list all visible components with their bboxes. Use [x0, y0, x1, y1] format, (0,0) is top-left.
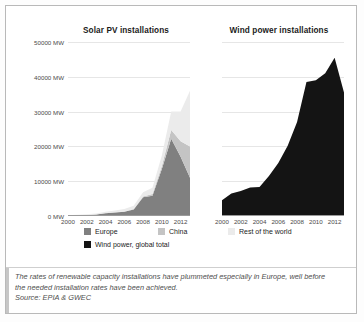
x-tick-label: 2008 [290, 218, 304, 225]
x-tick-label: 2002 [80, 218, 94, 225]
caption-line-1: The rates of renewable capacity installa… [15, 272, 347, 283]
legend-row-primary: Europe China Rest of the world [6, 228, 356, 241]
x-tick-label: 2000 [215, 218, 229, 225]
legend-label-rest-of-world: Rest of the world [239, 228, 292, 235]
x-tick-label: 2002 [234, 218, 248, 225]
chart-panel: Solar PV installations Wind power instal… [5, 5, 357, 314]
x-tick-label: 2004 [99, 218, 113, 225]
wind-chart-title: Wind power installations [204, 26, 354, 35]
solar-chart-title: Solar PV installations [51, 26, 201, 35]
solar-y-axis-labels: 0 MW10000 MW20000 MW30000 MW40000 MW5000… [14, 42, 64, 218]
caption-line-2: the needed installation rates have been … [15, 283, 347, 294]
legend-label-wind-global-total: Wind power, global total [95, 241, 169, 248]
legend-label-china: China [169, 228, 187, 235]
x-tick-label: 2006 [271, 218, 285, 225]
figure-caption: The rates of renewable capacity installa… [15, 272, 347, 304]
x-tick-label: 2010 [155, 218, 169, 225]
solar-area-chart [68, 42, 190, 216]
y-tick-label: 10000 MW [34, 178, 64, 185]
caption-divider [6, 267, 356, 268]
legend-item-rest-of-world[interactable]: Rest of the world [228, 228, 292, 235]
legend-swatch-wind-global-total [84, 241, 91, 248]
solar-x-axis-line [68, 215, 190, 216]
wind-area-chart [222, 42, 344, 216]
solar-plot-area [68, 42, 190, 216]
caption-source: Source: EPIA & GWEC [15, 293, 347, 304]
legend-swatch-europe [84, 228, 91, 235]
y-tick-label: 20000 MW [34, 143, 64, 150]
wind-plot-area [222, 42, 344, 216]
series-area-europe [68, 139, 190, 216]
x-tick-label: 2012 [328, 218, 342, 225]
legend-item-china[interactable]: China [158, 228, 187, 235]
series-area-wind-power-global-total [222, 58, 344, 216]
wind-x-axis-line [222, 215, 344, 216]
chart-legend: Europe China Rest of the world Wind powe… [6, 228, 356, 262]
x-tick-label: 2010 [309, 218, 323, 225]
x-tick-label: 2012 [174, 218, 188, 225]
y-tick-label: 30000 MW [34, 108, 64, 115]
figure-container: Solar PV installations Wind power instal… [0, 0, 364, 322]
x-tick-label: 2004 [253, 218, 267, 225]
x-tick-label: 2006 [117, 218, 131, 225]
legend-row-secondary: Wind power, global total [6, 241, 356, 254]
y-tick-label: 50000 MW [34, 39, 64, 46]
x-tick-label: 2000 [61, 218, 75, 225]
legend-swatch-china [158, 228, 165, 235]
legend-item-wind-global-total[interactable]: Wind power, global total [84, 241, 169, 248]
x-tick-label: 2008 [136, 218, 150, 225]
legend-label-europe: Europe [95, 228, 118, 235]
charts-area: Solar PV installations Wind power instal… [6, 6, 356, 264]
y-tick-label: 40000 MW [34, 73, 64, 80]
legend-swatch-rest-of-world [228, 228, 235, 235]
legend-item-europe[interactable]: Europe [84, 228, 118, 235]
caption-accent-bar [6, 268, 9, 313]
